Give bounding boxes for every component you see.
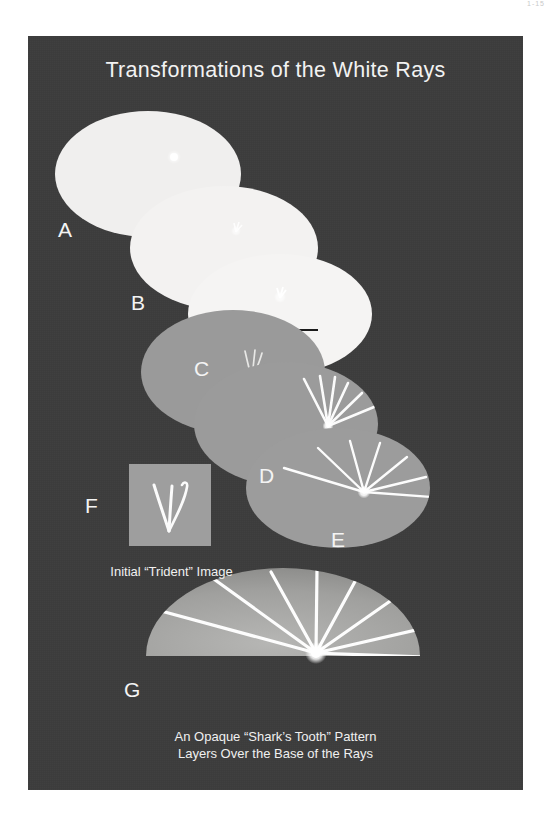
poster-panel: Transformations of the White Rays A B C … (28, 36, 523, 790)
panel-label-d: D (259, 465, 274, 486)
figure-illustration (28, 36, 523, 790)
shark-tooth-caption: An Opaque “Shark’s Tooth” Pattern Layers… (28, 728, 523, 762)
panel-label-a: A (58, 219, 72, 240)
panel-f-swatch (129, 464, 211, 546)
page-title: Transformations of the White Rays (28, 58, 523, 83)
panel-label-g: G (124, 679, 140, 700)
panel-label-b: B (131, 292, 145, 313)
trident-caption: Initial “Trident” Image (69, 563, 274, 580)
panel-label-e: E (331, 529, 345, 550)
panel-g-dome (146, 568, 422, 664)
panel-label-c: C (194, 358, 209, 379)
panel-label-f: F (85, 495, 98, 516)
shark-tooth-caption-line2: Layers Over the Base of the Rays (28, 745, 523, 762)
shark-tooth-caption-line1: An Opaque “Shark’s Tooth” Pattern (28, 728, 523, 745)
page-number: 1-15 (527, 0, 545, 7)
